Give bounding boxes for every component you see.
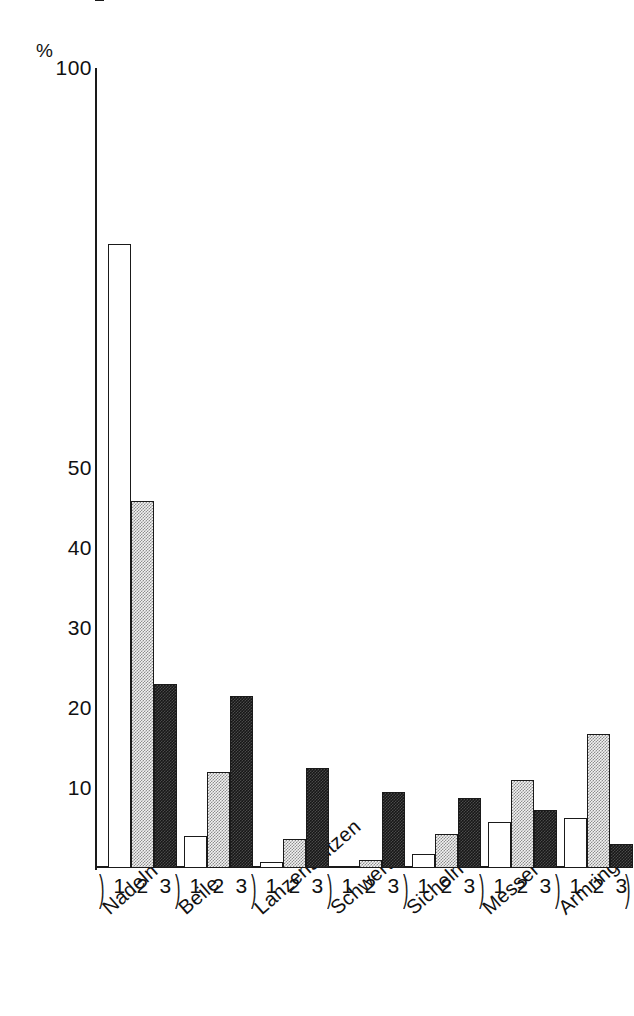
bar [564, 818, 587, 868]
bar [260, 862, 283, 868]
bar [610, 844, 633, 868]
y-tick-label: 30 [68, 616, 92, 640]
bar [336, 866, 359, 868]
bar [306, 768, 329, 868]
bar [131, 501, 154, 868]
x-subtick-label: 3 [230, 874, 254, 898]
bar [154, 684, 177, 868]
bar [412, 854, 435, 868]
plot-area [95, 68, 603, 868]
y-tick-label: 20 [68, 696, 92, 720]
y-tick-label: 40 [68, 536, 92, 560]
bar [511, 780, 534, 868]
y-tick-label: 100 [55, 56, 92, 80]
bar [382, 792, 405, 868]
y-tick-label: 50 [68, 456, 92, 480]
y-axis-unit-label: % [36, 40, 53, 62]
y-tick-mark [95, 0, 104, 1]
bar [458, 798, 481, 868]
bar [587, 734, 610, 868]
bar [108, 244, 131, 868]
bar [184, 836, 207, 868]
bar [283, 839, 306, 868]
bar [488, 822, 511, 868]
bar [230, 696, 253, 868]
bar [359, 860, 382, 868]
y-tick-label: 10 [68, 776, 92, 800]
bar [207, 772, 230, 868]
group-separator: ) [625, 872, 631, 905]
bar [534, 810, 557, 868]
bar [435, 834, 458, 868]
